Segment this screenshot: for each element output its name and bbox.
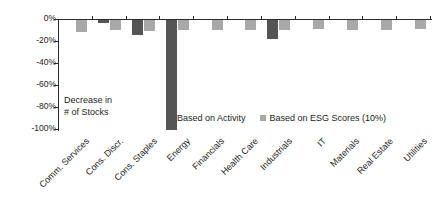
bar-esg [212,20,223,30]
legend-item-activity: Based on Activity [167,113,246,123]
bar-activity [98,20,109,23]
y-axis-tick-label: -80% [10,102,56,111]
y-axis-tick-label: -60% [10,80,56,89]
bar-activity [132,20,143,35]
y-axis-tick-label: 0% [10,14,56,23]
x-axis-category-label: Utilities [402,136,430,164]
bar-esg [313,20,324,29]
legend-label-esg: Based on ESG Scores (10%) [270,113,387,123]
bar-esg [381,20,392,30]
bar-esg [415,20,426,29]
y-axis: 0%-20%-40%-60%-80%-100% [0,0,56,131]
bar-chart: 0%-20%-40%-60%-80%-100% Decrease in # of… [0,0,437,207]
y-axis-tick-label: -100% [10,124,56,133]
legend-swatch-icon [167,115,173,121]
bar-activity [267,20,278,39]
bar-esg [178,20,189,30]
x-axis-category-label: Energy [165,136,192,163]
bar-esg [144,20,155,31]
bar-esg [347,20,358,30]
legend-label-activity: Based on Activity [177,113,246,123]
axis-note-line2: # of Stocks [64,107,112,119]
y-axis-tick-label: -40% [10,58,56,67]
x-axis-category-label: IT [315,136,328,149]
bar-esg [245,20,256,30]
bar-esg [279,20,290,30]
axis-note-line1: Decrease in [64,95,112,107]
bar-esg [76,20,87,32]
chart-legend: Based on Activity Based on ESG Scores (1… [167,113,386,123]
x-axis-category-label: Comm. Services [37,136,91,190]
axis-note: Decrease in # of Stocks [64,95,112,118]
bar-group [127,20,161,130]
legend-item-esg: Based on ESG Scores (10%) [260,113,387,123]
legend-swatch-icon [260,115,266,121]
x-axis-category-labels: Comm. ServicesCons. Discr.Cons. StaplesE… [0,134,437,207]
bar-group [397,20,431,130]
y-axis-tick-label: -20% [10,36,56,45]
x-axis-category-label: Materials [329,136,362,169]
x-axis-category-label: Industrials [258,136,294,172]
x-axis-tick-mark [430,16,431,20]
bar-esg [110,20,121,30]
